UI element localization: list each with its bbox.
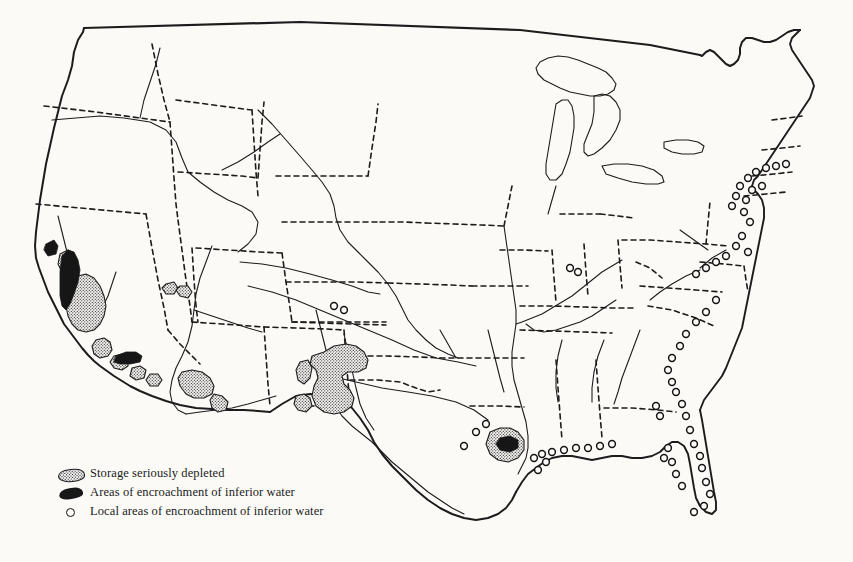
map-figure: Storage seriously depleted Areas of encr… (0, 0, 853, 562)
legend-label-depleted: Storage seriously depleted (86, 466, 225, 481)
legend-item-encroachment: Areas of encroachment of inferior water (52, 483, 412, 502)
map-ink (35, 22, 814, 520)
rivers (52, 48, 726, 514)
small-circle-icon (52, 503, 86, 521)
solid-blob-icon (52, 484, 86, 502)
legend-item-depleted: Storage seriously depleted (52, 464, 412, 483)
legend-label-encroachment: Areas of encroachment of inferior water (86, 485, 295, 500)
legend-label-local-encroachment: Local areas of encroachment of inferior … (86, 504, 324, 519)
encroachment-regions (44, 240, 518, 452)
stippled-blob-icon (52, 465, 86, 483)
legend-item-local-encroachment: Local areas of encroachment of inferior … (52, 502, 412, 521)
great-lakes (536, 56, 704, 184)
legend: Storage seriously depleted Areas of encr… (52, 464, 412, 521)
